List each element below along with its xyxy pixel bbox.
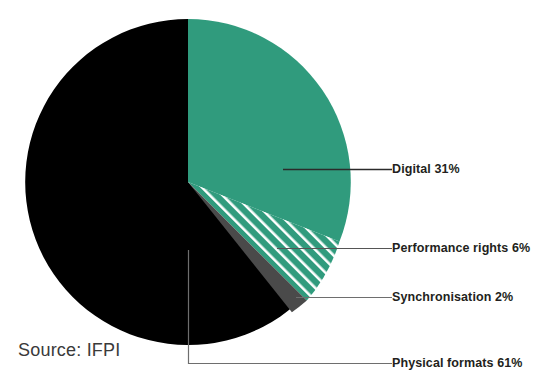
pie-chart-figure: Digital 31% Performance rights 6% Synchr… bbox=[0, 0, 558, 381]
pie-label-physical-formats: Physical formats 61% bbox=[392, 356, 523, 370]
pie-label-performance-rights: Performance rights 6% bbox=[392, 241, 530, 255]
pie-chart-canvas bbox=[0, 0, 558, 381]
pie-label-synchronisation: Synchronisation 2% bbox=[392, 290, 513, 304]
pie-label-digital: Digital 31% bbox=[392, 162, 460, 176]
source-note: Source: IFPI bbox=[18, 340, 120, 361]
